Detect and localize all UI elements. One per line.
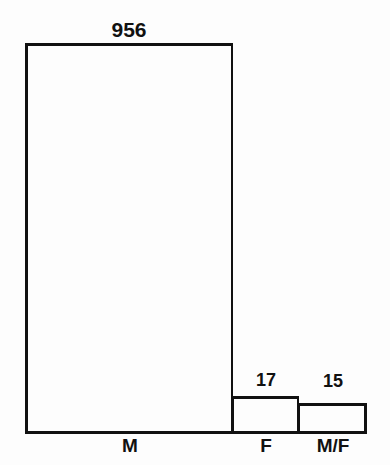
value-label-m: 956 xyxy=(79,19,179,40)
bar-f xyxy=(233,396,299,434)
category-label-mf: M/F xyxy=(297,436,369,455)
bar-mf xyxy=(299,403,367,434)
bar-m xyxy=(25,43,233,434)
chart-canvas: 956 17 15 M F M/F xyxy=(0,0,390,465)
value-label-f: 17 xyxy=(233,371,299,389)
category-label-f: F xyxy=(233,436,299,455)
x-axis-baseline xyxy=(25,431,367,434)
bar-chart-plot-area: 956 17 15 M F M/F xyxy=(0,0,390,465)
value-label-mf: 15 xyxy=(299,372,367,390)
category-label-m: M xyxy=(80,436,180,455)
